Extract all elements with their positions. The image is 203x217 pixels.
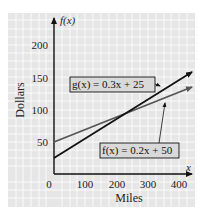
y-tick-200: 200	[32, 39, 49, 51]
x-tick-300: 300	[140, 178, 157, 190]
y-tick-150: 150	[32, 72, 49, 84]
g-label: g(x) = 0.3x + 25	[72, 78, 144, 91]
y-axis-title: Dollars	[13, 82, 27, 118]
y-tick-50: 50	[37, 136, 49, 148]
f-label: f(x) = 0.2x + 50	[102, 144, 173, 157]
y-tick-100: 100	[32, 104, 49, 116]
x-tick-400: 400	[171, 178, 188, 190]
x-tick-0: 0	[46, 178, 52, 190]
x-tick-200: 200	[109, 178, 126, 190]
chart: f(x) x 200 150 100 50 0 100 200 300 400 …	[0, 0, 203, 217]
x-tick-100: 100	[77, 178, 94, 190]
x-axis-title: Miles	[115, 191, 143, 205]
y-axis-symbol: f(x)	[60, 14, 76, 27]
x-axis-symbol: x	[185, 161, 191, 173]
